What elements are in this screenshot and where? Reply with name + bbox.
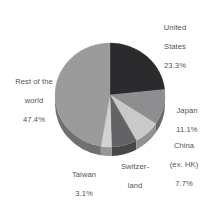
pie-label-china: China (ex. HK) 7.7%	[158, 131, 210, 198]
pie-label-united-states-line1: United	[149, 23, 201, 33]
pie-label-switzerland: Switzer- land 7.5%	[112, 152, 158, 201]
pie-label-switzerland-line2: land	[112, 181, 158, 191]
pie-label-china-value: 7.7%	[158, 179, 210, 189]
pie-label-switzerland-value: 7.5%	[112, 200, 158, 201]
pie-label-taiwan-line1: Taiwan	[60, 170, 108, 180]
pie-label-rest-of-world-line1: Rest of the	[4, 77, 64, 87]
pie-label-japan-line1: Japan	[163, 106, 211, 116]
pie-side-taiwan	[101, 146, 112, 156]
pie-label-china-line1: China	[158, 141, 210, 151]
pie-label-united-states-line2: States	[149, 42, 201, 52]
pie-label-rest-of-world-line2: world	[4, 96, 64, 106]
pie-chart: United States 23.3% Japan 11.1% China (e…	[0, 0, 220, 201]
pie-label-rest-of-world-value: 47.4%	[4, 115, 64, 125]
pie-label-switzerland-line1: Switzer-	[112, 162, 158, 172]
pie-label-taiwan: Taiwan 3.1%	[60, 160, 108, 201]
pie-label-united-states: United States 23.3%	[149, 13, 201, 80]
pie-label-united-states-value: 23.3%	[149, 61, 201, 71]
pie-label-china-line2: (ex. HK)	[158, 160, 210, 170]
pie-label-rest-of-world: Rest of the world 47.4%	[4, 67, 64, 134]
pie-label-taiwan-value: 3.1%	[60, 189, 108, 199]
